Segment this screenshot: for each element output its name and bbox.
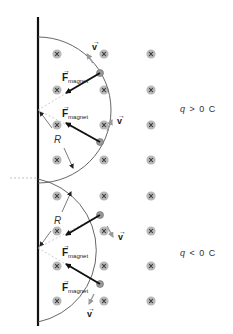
bottom-velocity-label-upper: →v	[118, 233, 123, 242]
top-velocity-arrow-upper	[87, 54, 93, 63]
bottom-force-arrow-upper	[66, 215, 100, 235]
bottom-velocity-label-lower: →v	[87, 310, 92, 319]
magnetic-field-diagram	[0, 0, 233, 334]
top-radius-label: R	[54, 135, 61, 145]
bottom-force-label-lower: →Fmagnet	[62, 278, 88, 294]
top-radius-arrow-lower	[64, 148, 73, 168]
top-velocity-label-lower: →v	[117, 117, 122, 126]
bottom-radius-label: R	[54, 216, 61, 226]
top-force-label-lower: →Fmagnet	[62, 104, 88, 120]
bottom-force-label-upper: →Fmagnet	[62, 243, 88, 259]
top-force-label-upper: →Fmagnet	[62, 68, 88, 84]
bottom-charge-label: q < 0 C	[180, 249, 216, 258]
bottom-velocity-arrow-lower	[89, 294, 94, 304]
top-force-arrow-lower	[66, 123, 100, 142]
bottom-radius-arrow-upper	[62, 192, 71, 212]
top-velocity-label-upper: →v	[92, 43, 97, 52]
top-charge-label: q > 0 C	[180, 105, 216, 114]
